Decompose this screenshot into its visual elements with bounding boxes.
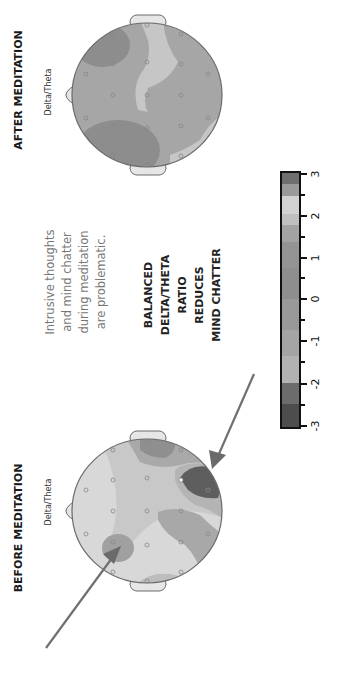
after-subtitle: Delta/Theta bbox=[44, 68, 53, 115]
arrow-icon bbox=[46, 546, 121, 648]
caption-line: during meditation bbox=[77, 230, 91, 333]
message-block: BALANCED DELTA/THETA RATIO REDUCES MIND … bbox=[142, 248, 223, 342]
caption-line: and mind chatter bbox=[60, 232, 74, 332]
before-title: BEFORE MEDITATION bbox=[12, 464, 25, 593]
colorbar-tick-label: -2 bbox=[309, 379, 322, 390]
before-head-map bbox=[66, 431, 230, 591]
before-subtitle: Delta/Theta bbox=[44, 478, 53, 525]
colorbar-tick-label: 3 bbox=[309, 171, 322, 178]
after-meditation-panel: AFTER MEDITATION Delta/Theta bbox=[12, 15, 230, 180]
message-line: BALANCED bbox=[142, 262, 155, 328]
colorbar: -3 -2 -1 0 1 2 3 bbox=[281, 171, 322, 432]
colorbar-tick-label: -1 bbox=[309, 336, 322, 347]
arrow-icon bbox=[209, 374, 254, 469]
message-line: MIND CHATTER bbox=[210, 248, 223, 342]
message-line: RATIO bbox=[176, 276, 189, 313]
caption-line: are problematic. bbox=[94, 235, 108, 330]
colorbar-tick-label: 0 bbox=[309, 296, 322, 303]
caption-line: Intrusive thoughts bbox=[43, 229, 57, 334]
figure: AFTER MEDITATION Delta/Theta bbox=[0, 0, 349, 700]
colorbar-tick-label: 2 bbox=[309, 213, 322, 220]
caption-block: Intrusive thoughts and mind chatter duri… bbox=[43, 229, 108, 334]
message-line: DELTA/THETA bbox=[159, 254, 172, 335]
colorbar-tick-label: -3 bbox=[309, 421, 322, 432]
before-meditation-panel: BEFORE MEDITATION Delta/Theta bbox=[12, 374, 254, 648]
colorbar-tick-label: 1 bbox=[309, 255, 322, 262]
after-title: AFTER MEDITATION bbox=[12, 30, 25, 150]
message-line: REDUCES bbox=[193, 266, 206, 324]
after-head-map bbox=[66, 15, 230, 180]
